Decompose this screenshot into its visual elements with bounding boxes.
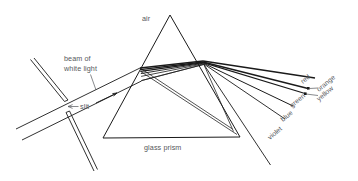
label-blue: blue xyxy=(279,109,294,123)
leader-white-light xyxy=(91,75,97,91)
marker-orange xyxy=(307,87,310,90)
ray-yellow xyxy=(203,63,305,94)
incident-white-beam xyxy=(16,68,142,140)
prism-dispersion-diagram: air beam of white light slit glass prism… xyxy=(0,0,358,181)
ray-red xyxy=(203,61,315,78)
label-red: red xyxy=(299,73,311,85)
beam-direction-arrow-shaft xyxy=(96,93,117,103)
label-glass-prism: glass prism xyxy=(144,143,181,152)
label-slit: slit xyxy=(80,102,89,111)
lower-fan-rays xyxy=(140,15,237,135)
slit-barrier xyxy=(31,58,98,171)
label-beam-line1: beam of xyxy=(64,54,91,63)
fan-ray-b xyxy=(141,71,238,134)
barrier-upper-edge-a xyxy=(31,60,65,102)
barrier-upper-cap xyxy=(65,100,69,102)
marker-yellow xyxy=(304,92,307,95)
dispersed-spectrum-rays xyxy=(203,61,315,165)
barrier-lower-edge-b xyxy=(70,111,98,170)
label-beam-line2: white light xyxy=(63,64,97,73)
barrier-lower-edge-a xyxy=(66,113,94,172)
diagram-canvas: air beam of white light slit glass prism… xyxy=(0,0,358,181)
label-air: air xyxy=(142,14,151,23)
barrier-lower-cap xyxy=(66,111,70,113)
white-beam-edge-upper xyxy=(16,68,140,129)
label-violet: violet xyxy=(266,125,283,141)
barrier-upper-edge-b xyxy=(34,58,68,100)
